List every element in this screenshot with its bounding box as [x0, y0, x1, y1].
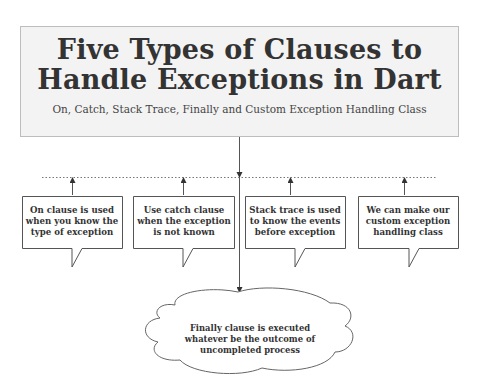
- callout-4-text: We can make our custom exception handlin…: [358, 205, 458, 238]
- cloud-text: Finally clause is executed whatever be t…: [183, 323, 317, 356]
- callout-3-text: Stack trace is used to know the events b…: [245, 205, 345, 238]
- callout-2-text: Use catch clause when the exception is n…: [134, 205, 234, 238]
- callout-1-text: On clause is used when you know the type…: [22, 205, 122, 238]
